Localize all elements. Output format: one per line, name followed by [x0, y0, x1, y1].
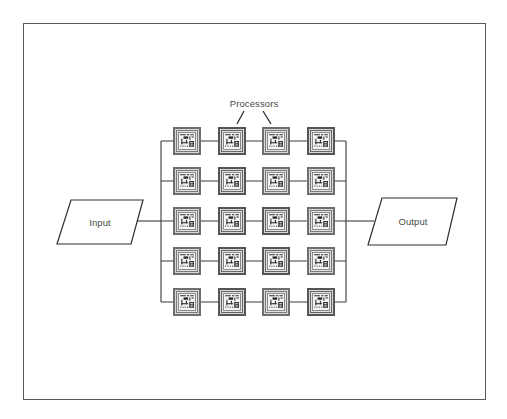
output-label: Output [398, 216, 427, 227]
processor-chip-icon [218, 288, 246, 316]
processors-label: Processors [230, 98, 279, 109]
processor-chip-icon [262, 207, 290, 235]
pointer-line-right [263, 111, 271, 124]
processor-chip-icon [218, 167, 246, 195]
connection-lines [0, 0, 507, 419]
processor-chip-icon [173, 288, 201, 316]
processor-chip-icon [262, 247, 290, 275]
input-label: Input [89, 217, 111, 228]
processor-chip-icon [173, 247, 201, 275]
processor-chip-icon [218, 127, 246, 155]
processor-chip-icon [307, 288, 335, 316]
processor-chip-icon [173, 167, 201, 195]
processor-chip-icon [173, 127, 201, 155]
processor-chip-icon [307, 167, 335, 195]
processor-chip-icon [218, 247, 246, 275]
processor-chip-icon [307, 127, 335, 155]
processor-chip-icon [262, 288, 290, 316]
processor-chip-icon [307, 207, 335, 235]
pointer-line-left [237, 111, 244, 124]
processor-chip-icon [173, 207, 201, 235]
processor-chip-icon [307, 247, 335, 275]
processor-chip-icon [262, 127, 290, 155]
processor-chip-icon [218, 207, 246, 235]
processor-chip-icon [262, 167, 290, 195]
